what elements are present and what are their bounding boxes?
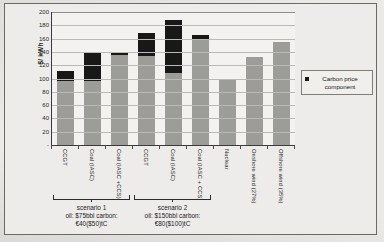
y-axis-tick-label: 40 xyxy=(42,115,49,121)
x-axis-label-slot: CCGT xyxy=(141,149,151,197)
x-axis-label-slot: Coal (IASC) xyxy=(168,149,178,197)
legend-swatch-carbon-price xyxy=(305,77,309,81)
x-axis-label: Coal (IASC +CCS) xyxy=(116,149,122,199)
bar-segment-base-cost xyxy=(219,80,236,145)
x-axis-label-slot: Coal (IASC + CCS) xyxy=(195,149,205,197)
gridline xyxy=(52,52,295,53)
x-axis-label-slot: Onshore wind (27%) xyxy=(249,149,259,197)
gridline xyxy=(52,12,295,13)
x-axis-label: Coal (IASC + CCS) xyxy=(197,149,203,200)
scenario-title: scenario 2 xyxy=(113,204,233,212)
gridline xyxy=(52,25,295,26)
chart-frame: $/ kWh -20406080100120140160180200 CCGTC… xyxy=(4,3,377,235)
scenario-bracket-nub xyxy=(172,199,173,202)
x-axis-label-slot: CCGT xyxy=(60,149,70,197)
scenario-detail-line-2: €80($100)tC xyxy=(113,220,233,228)
y-axis-tick-label: 200 xyxy=(39,9,49,15)
scenario-detail-line-1: oil: $150bbl carbon: xyxy=(113,212,233,220)
scenario-bracket xyxy=(134,195,211,200)
y-axis-tick-label: 60 xyxy=(42,102,49,108)
scenario-bracket-nub xyxy=(91,199,92,202)
y-axis-tick-label: 100 xyxy=(39,76,49,82)
chart-screenshot: $/ kWh -20406080100120140160180200 CCGTC… xyxy=(0,0,384,242)
y-axis-tick-label: 20 xyxy=(42,129,49,135)
x-axis-label-slot: Nuclear xyxy=(222,149,232,197)
x-axis-label: CCGT xyxy=(62,149,68,166)
gridline xyxy=(52,132,295,133)
bar-segment-carbon-price xyxy=(84,53,101,80)
bar-segment-base-cost xyxy=(165,73,182,145)
x-axis-label: Coal (IASC) xyxy=(89,149,95,181)
x-axis-labels: CCGTCoal (IASC)Coal (IASC +CCS)CCGTCoal … xyxy=(51,149,294,197)
legend-label-carbon-price: Carbon price component xyxy=(311,75,369,90)
gridline xyxy=(52,105,295,106)
plot-wrapper: $/ kWh -20406080100120140160180200 CCGTC… xyxy=(5,4,378,236)
chart-legend: Carbon price component xyxy=(301,70,373,95)
gridline xyxy=(52,65,295,66)
x-axis-label-slot: Coal (IASC +CCS) xyxy=(114,149,124,197)
y-axis-tick-label: - xyxy=(47,142,49,148)
bar-segment-base-cost xyxy=(84,81,101,146)
x-axis-label: Onshore wind (27%) xyxy=(251,149,257,204)
y-axis-tick-label: 120 xyxy=(39,62,49,68)
gridline xyxy=(52,39,295,40)
scenario-caption: scenario 2oil: $150bbl carbon:€80($100)t… xyxy=(113,204,233,229)
gridline xyxy=(52,79,295,80)
x-axis-label: Offshore wind (35%) xyxy=(278,149,284,204)
x-axis-label-slot: Coal (IASC) xyxy=(87,149,97,197)
plot-area xyxy=(51,12,295,146)
gridline xyxy=(52,92,295,93)
x-axis-label: CCGT xyxy=(143,149,149,166)
x-axis-label: Nuclear xyxy=(224,149,230,170)
y-axis-ticks: -20406080100120140160180200 xyxy=(23,12,49,145)
y-axis-tick-label: 80 xyxy=(42,89,49,95)
x-axis-label: Coal (IASC) xyxy=(170,149,176,181)
y-axis-tick-label: 160 xyxy=(39,36,49,42)
bar-segment-base-cost xyxy=(273,42,290,145)
y-axis-tick-label: 180 xyxy=(39,22,49,28)
x-axis-tickmark xyxy=(294,145,295,149)
y-axis-tick-label: 140 xyxy=(39,49,49,55)
scenario-bracket xyxy=(53,195,130,200)
gridline xyxy=(52,118,295,119)
bar-segment-base-cost xyxy=(57,81,74,146)
x-axis-label-slot: Offshore wind (35%) xyxy=(276,149,286,197)
